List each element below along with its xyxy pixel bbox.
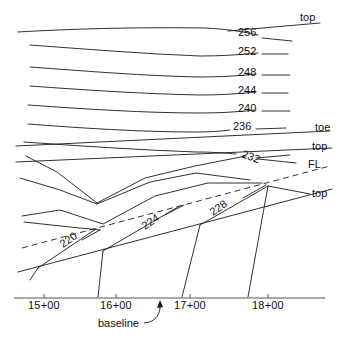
feature-label-top-lower: top (312, 187, 327, 199)
baseline-axis (14, 294, 325, 298)
feature-label-fl: FL (308, 158, 321, 170)
upper-contour-group (18, 28, 292, 132)
vee-contour-228b (97, 173, 250, 204)
baseline-callout (144, 300, 163, 323)
leader-top-lower (268, 186, 310, 194)
feature-label-toe: toe (315, 121, 330, 133)
top-of-slope-line-middle (16, 148, 332, 162)
contour-label-252: 252 (238, 45, 256, 57)
feature-label-top-middle: top (312, 140, 327, 152)
baseline-arrow-curve (144, 303, 160, 323)
contour-line-236 (28, 124, 230, 132)
contour-line-256 (18, 28, 258, 35)
station-label-15: 15+00 (28, 299, 60, 311)
contour-line-248 (30, 67, 256, 77)
vee-contour-224 (24, 222, 100, 230)
vee-contour-group (20, 156, 262, 230)
contour-label-240: 240 (238, 102, 256, 114)
contour-label-236: 236 (233, 120, 251, 132)
axis-tick-group (44, 294, 268, 298)
drop-line-c (248, 186, 268, 297)
vee-contour-upper (26, 156, 246, 203)
feature-label-top-upper: top (300, 11, 315, 23)
station-label-17: 17+00 (174, 299, 206, 311)
contour-line-232 (24, 142, 236, 154)
leader-fl (258, 159, 296, 163)
vee-contour-228 (20, 178, 97, 204)
contour-line-244 (30, 86, 256, 95)
drop-line-b (182, 225, 200, 297)
diagram-canvas: 256 252 248 244 240 236 232 228 224 220 … (0, 0, 344, 345)
top-of-slope-line-lower (18, 189, 332, 272)
contour-line-256-tail (262, 38, 292, 41)
station-label-18: 18+00 (252, 299, 284, 311)
feature-label-group: top toe top FL top (300, 11, 330, 199)
contour-label-244: 244 (238, 84, 256, 96)
contour-label-232: 232 (240, 148, 261, 166)
toe-of-slope-line (16, 131, 330, 146)
contour-label-256: 256 (238, 26, 256, 38)
contour-line-236-tail (256, 128, 286, 129)
contour-line-252 (30, 45, 258, 56)
contour-line-240 (28, 105, 256, 113)
contour-line-224-leader (165, 205, 184, 215)
contour-line-228-leader (243, 185, 266, 198)
drop-line-d (30, 268, 38, 280)
baseline-arrow-head (157, 300, 163, 308)
station-label-group: 15+00 16+00 17+00 18+00 (28, 299, 284, 311)
drop-line-a (98, 251, 103, 297)
contour-diagram: 256 252 248 244 240 236 232 228 224 220 … (0, 0, 344, 345)
contour-label-224: 224 (139, 211, 161, 231)
station-label-16: 16+00 (100, 299, 132, 311)
baseline-annotation-label: baseline (98, 317, 139, 329)
contour-label-228: 228 (207, 197, 229, 217)
contour-label-248: 248 (238, 66, 256, 78)
contour-label-220: 220 (57, 229, 79, 249)
